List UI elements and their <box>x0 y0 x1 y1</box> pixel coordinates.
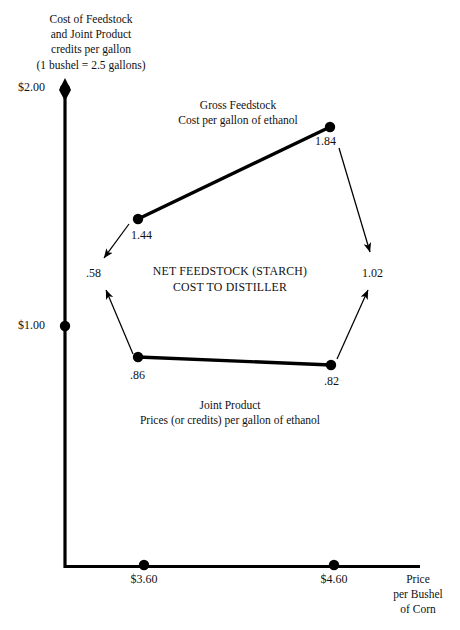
gross-feedstock-point-144 <box>133 214 143 224</box>
net-cost-label-right: 1.02 <box>362 266 383 280</box>
x-axis-title: Price per Bushel of Corn <box>380 572 456 617</box>
net-right-arrow-from-gross <box>339 148 370 252</box>
y-axis-tick-label-1-00: $1.00 <box>18 318 45 332</box>
gross-feedstock-series-line <box>138 127 330 219</box>
data-label-joint-82: .82 <box>324 374 339 388</box>
joint-product-series-label: Joint Product Prices (or credits) per ga… <box>120 398 340 428</box>
chart-graphics <box>0 0 460 630</box>
net-cost-label-left: .58 <box>86 266 101 280</box>
x-tick-marker-360 <box>139 560 149 570</box>
y-tick-marker-1 <box>60 321 70 331</box>
y-tick-marker-2 <box>60 84 70 94</box>
data-label-gross-144: 1.44 <box>131 228 152 242</box>
gross-feedstock-point-184 <box>325 122 335 132</box>
net-left-arrow-from-gross <box>104 224 129 258</box>
gross-feedstock-series-label: Gross Feedstock Cost per gallon of ethan… <box>168 98 308 128</box>
data-label-gross-184: 1.84 <box>315 134 336 148</box>
net-left-arrow-from-joint <box>106 290 133 354</box>
data-label-joint-86: .86 <box>130 368 145 382</box>
x-tick-marker-460 <box>329 560 339 570</box>
joint-product-point-82 <box>326 360 336 370</box>
net-right-arrow-from-joint <box>337 290 368 359</box>
net-feedstock-region-label: NET FEEDSTOCK (STARCH) COST TO DISTILLER <box>140 264 320 295</box>
y-axis-tick-label-2-00: $2.00 <box>18 80 45 94</box>
chart-canvas: Cost of Feedstock and Joint Product cred… <box>0 0 460 630</box>
x-axis-tick-label-3-60: $3.60 <box>118 572 170 586</box>
joint-product-series-line <box>138 357 331 365</box>
x-axis-tick-label-4-60: $4.60 <box>308 572 360 586</box>
joint-product-point-86 <box>133 352 143 362</box>
y-axis-title: Cost of Feedstock and Joint Product cred… <box>6 12 176 73</box>
